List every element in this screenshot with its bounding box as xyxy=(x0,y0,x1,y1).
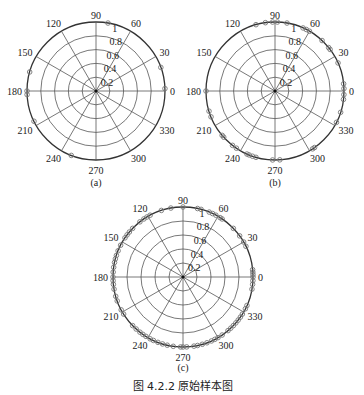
angle-spoke xyxy=(148,216,183,277)
angle-tick-label: 330 xyxy=(160,125,175,136)
origin-dot xyxy=(273,89,276,92)
angle-tick-label: 60 xyxy=(131,18,141,29)
angle-tick-label: 0 xyxy=(258,272,263,283)
radial-tick-label: 0.4 xyxy=(283,63,296,74)
angle-spoke xyxy=(36,57,96,92)
angle-tick-label: 270 xyxy=(268,165,283,176)
angle-tick-label: 330 xyxy=(339,125,354,136)
radial-tick-label: 1 xyxy=(291,23,296,34)
angle-tick-label: 300 xyxy=(219,340,234,351)
angle-tick-label: 90 xyxy=(178,195,188,206)
radial-tick-label: 0.6 xyxy=(194,235,207,246)
polar-plot-c: 03060901201501802102402703003300.20.40.6… xyxy=(93,195,263,375)
origin-dot xyxy=(94,89,97,92)
angle-tick-label: 30 xyxy=(247,232,257,243)
angle-tick-label: 210 xyxy=(196,125,211,136)
angle-spoke xyxy=(62,91,97,151)
angle-tick-label: 0 xyxy=(170,86,175,97)
angle-tick-label: 240 xyxy=(225,153,240,164)
panel-label: (b) xyxy=(269,177,281,189)
radial-tick-label: 0.4 xyxy=(104,63,117,74)
origin-dot xyxy=(181,275,184,278)
figure-caption: 图 4.2.2 原始样本图 xyxy=(133,379,234,393)
angle-spoke xyxy=(183,277,218,338)
radial-tick-label: 0.8 xyxy=(197,221,210,232)
angle-tick-label: 180 xyxy=(186,86,201,97)
angle-tick-label: 150 xyxy=(104,232,119,243)
angle-spoke xyxy=(62,31,97,91)
angle-spoke xyxy=(96,91,131,151)
angle-tick-label: 120 xyxy=(133,203,148,214)
angle-spoke xyxy=(36,91,96,126)
angle-spoke xyxy=(122,242,183,277)
radial-tick-label: 0.6 xyxy=(107,50,120,61)
angle-tick-label: 0 xyxy=(349,86,354,97)
angle-tick-label: 240 xyxy=(133,340,148,351)
angle-tick-label: 150 xyxy=(196,47,211,58)
angle-tick-label: 210 xyxy=(17,125,32,136)
angle-spoke xyxy=(183,277,244,312)
angle-tick-label: 120 xyxy=(46,18,61,29)
radial-tick-label: 0.8 xyxy=(109,36,122,47)
angle-tick-label: 90 xyxy=(91,10,101,21)
radial-tick-label: 0.4 xyxy=(191,249,204,260)
angle-spoke xyxy=(275,91,335,126)
angle-tick-label: 300 xyxy=(131,153,146,164)
angle-tick-label: 330 xyxy=(247,311,262,322)
angle-tick-label: 60 xyxy=(310,18,320,29)
angle-tick-label: 90 xyxy=(270,10,280,21)
radial-tick-label: 0.2 xyxy=(101,77,114,88)
radial-tick-label: 1 xyxy=(112,23,117,34)
radial-tick-label: 0.2 xyxy=(280,77,293,88)
angle-tick-label: 240 xyxy=(46,153,61,164)
radial-tick-label: 0.6 xyxy=(286,50,299,61)
panel-label: (a) xyxy=(90,177,101,189)
angle-spoke xyxy=(241,91,276,151)
angle-tick-label: 120 xyxy=(225,18,240,29)
angle-tick-label: 210 xyxy=(104,311,119,322)
polar-figure: 03060901201501802102402703003300.20.40.6… xyxy=(0,0,364,395)
angle-tick-label: 180 xyxy=(7,86,22,97)
angle-spoke xyxy=(96,91,156,126)
angle-spoke xyxy=(148,277,183,338)
angle-tick-label: 300 xyxy=(310,153,325,164)
radial-tick-label: 0.2 xyxy=(188,262,201,273)
polar-plot-b: 03060901201501802102402703003300.20.40.6… xyxy=(186,10,354,190)
angle-tick-label: 30 xyxy=(160,47,170,58)
angle-tick-label: 30 xyxy=(339,47,349,58)
angle-spoke xyxy=(215,91,275,126)
angle-tick-label: 60 xyxy=(219,203,229,214)
polar-plot-a: 03060901201501802102402703003300.20.40.6… xyxy=(7,10,175,190)
angle-tick-label: 270 xyxy=(89,165,104,176)
panel-label: (c) xyxy=(177,362,188,374)
angle-spoke xyxy=(215,57,275,92)
angle-tick-label: 270 xyxy=(176,352,191,363)
angle-spoke xyxy=(275,91,310,151)
angle-tick-label: 150 xyxy=(17,47,32,58)
radial-tick-label: 0.8 xyxy=(288,36,301,47)
angle-spoke xyxy=(122,277,183,312)
angle-tick-label: 180 xyxy=(93,272,108,283)
angle-spoke xyxy=(241,31,276,91)
